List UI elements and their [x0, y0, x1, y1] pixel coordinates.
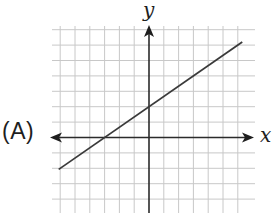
y-axis-label: y [143, 0, 154, 22]
coordinate-plane [0, 0, 280, 213]
plotted-line [59, 42, 243, 169]
y-axis [144, 25, 154, 213]
answer-choice-label: (A) [2, 118, 34, 145]
x-axis-label: x [260, 123, 271, 147]
